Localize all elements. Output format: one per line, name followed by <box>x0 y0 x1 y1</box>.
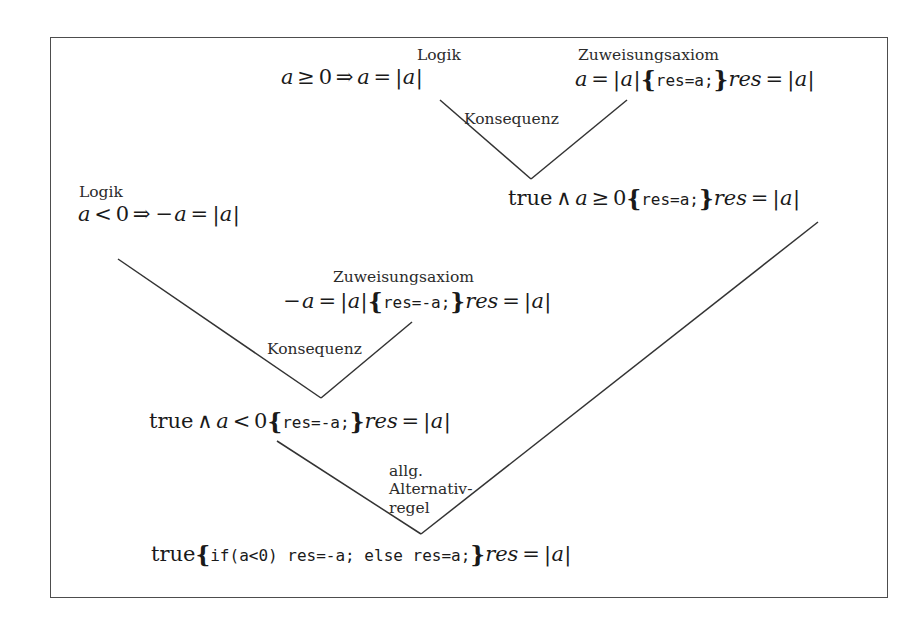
node-premise-assign-pos: a=|a|{res=a;}res=|a| <box>575 66 815 91</box>
node-premise-logic-neg: a<0⇒−a=|a| <box>78 203 240 226</box>
rule-label-konsequenz-mid: Konsequenz <box>267 340 362 358</box>
rule-label-alternativregel-line2: Alternativ- <box>389 480 472 498</box>
node-conclusion-pos: true∧a≥0{res=a;}res=|a| <box>508 185 800 210</box>
proof-tree-figure: Logik a≥0⇒a=|a| Zuweisungsaxiom a=|a|{re… <box>0 0 924 631</box>
rule-label-zuweisungsaxiom-top: Zuweisungsaxiom <box>578 46 719 64</box>
node-premise-assign-neg: −a=|a|{res=-a;}res=|a| <box>282 288 552 313</box>
rule-label-zuweisungsaxiom-mid: Zuweisungsaxiom <box>333 268 474 286</box>
rule-label-alternativregel: allg. Alternativ- regel <box>389 462 472 517</box>
rule-label-logik-top: Logik <box>417 46 461 64</box>
node-final-conclusion: true{if(a<0) res=-a; else res=a;}res=|a| <box>151 541 572 566</box>
rule-label-konsequenz-top: Konsequenz <box>464 110 559 128</box>
rule-label-logik-left: Logik <box>79 183 123 201</box>
node-conclusion-neg: true∧a<0{res=-a;}res=|a| <box>149 408 451 433</box>
node-premise-logic-pos: a≥0⇒a=|a| <box>281 66 423 89</box>
rule-label-alternativregel-line3: regel <box>389 499 472 517</box>
rule-label-alternativregel-line1: allg. <box>389 462 472 480</box>
